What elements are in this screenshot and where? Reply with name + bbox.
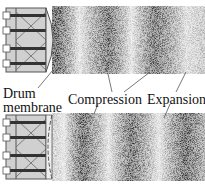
bottom-wave-field [52, 113, 205, 181]
drum-label: Drum [3, 87, 36, 101]
bottom-drum [3, 115, 52, 179]
top-drum [3, 8, 53, 72]
top-wave-field [52, 6, 205, 74]
compression-label: Compression [68, 93, 142, 107]
sound-wave-diagram: Drum membrane Compression Expansion [0, 0, 205, 184]
expansion-label: Expansion [147, 93, 205, 107]
membrane-label: membrane [3, 101, 62, 115]
top-membrane [46, 8, 53, 72]
